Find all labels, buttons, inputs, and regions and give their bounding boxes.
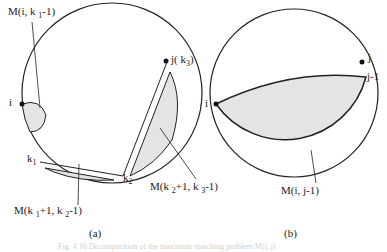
panel-b-graphics: [210, 9, 378, 183]
point-i-a: [20, 102, 25, 107]
point-i-b: [214, 102, 219, 107]
label-m-i-j1: M(i, j-1): [281, 185, 319, 196]
point-j-a: [164, 59, 169, 64]
label-m-k1-k2: M(k 1+1, k 2-1): [14, 205, 82, 216]
label-point-i-a: i: [9, 97, 12, 108]
figure-caption: Fig. 4.16 Decomposition of the maximum m…: [58, 242, 276, 251]
panel-b-label: (b): [284, 228, 297, 239]
label-point-k1: k1: [27, 153, 37, 164]
point-j-b: [360, 60, 365, 65]
label-point-k2: k2: [123, 172, 133, 183]
label-point-j-minus-1: j-1: [367, 71, 379, 82]
label-point-i-b: i: [205, 98, 208, 109]
label-m-i-k1: M(i, k 1-1): [8, 6, 55, 17]
label-point-j-a: j( k3): [171, 54, 194, 65]
panel-a-label: (a): [89, 228, 101, 239]
label-m-k2-k3: M(k 2+1, k 3-1): [150, 181, 218, 192]
label-point-j-b: j: [368, 52, 371, 63]
panel-a-graphics: [20, 3, 203, 205]
